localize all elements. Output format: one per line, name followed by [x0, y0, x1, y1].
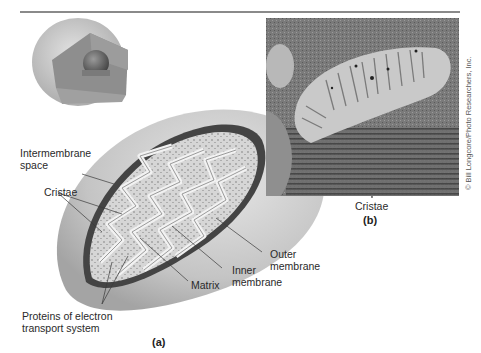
label-proteins-electron-transport: Proteins of electron transport system: [22, 310, 112, 334]
label-outer-membrane: Outer membrane: [270, 248, 320, 272]
label-line: space: [20, 159, 91, 171]
label-line: Outer: [270, 248, 320, 260]
label-intermembrane-space: Intermembrane space: [20, 147, 91, 171]
panel-label-a: (a): [152, 336, 165, 348]
label-line: Proteins of electron: [22, 310, 112, 322]
cell-inset-icon: [32, 18, 128, 106]
label-matrix: Matrix: [191, 279, 220, 291]
label-line: Intermembrane: [20, 147, 91, 159]
label-cristae-a: Cristae: [44, 186, 77, 198]
label-line: transport system: [22, 322, 112, 334]
label-line: membrane: [270, 260, 320, 272]
photo-credit: © Bill Longcore/Photo Researchers, Inc.: [464, 56, 473, 190]
label-cristae-b: Cristae: [355, 200, 388, 212]
electron-micrograph: [266, 18, 459, 196]
label-line: membrane: [232, 276, 282, 288]
panel-label-b: (b): [363, 214, 377, 226]
